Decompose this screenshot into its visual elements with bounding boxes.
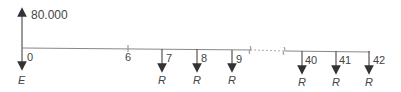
timeline-axis-2 bbox=[285, 51, 370, 52]
payment-label: R bbox=[228, 75, 236, 86]
payment-label: R bbox=[332, 77, 340, 88]
period-label: 8 bbox=[201, 53, 207, 64]
period-label: 40 bbox=[305, 55, 317, 66]
payment-label: R bbox=[158, 75, 166, 86]
payment-label: R bbox=[365, 77, 373, 88]
timeline-axis bbox=[22, 48, 252, 50]
period-label: 7 bbox=[166, 53, 172, 64]
period-label: 6 bbox=[125, 52, 131, 63]
payment-label: R bbox=[298, 77, 306, 88]
period-label: 41 bbox=[339, 55, 351, 66]
inflow-amount: 80.000 bbox=[31, 9, 68, 21]
axis-break-right bbox=[283, 47, 285, 55]
period-label: 42 bbox=[373, 55, 385, 66]
axis-break-dots bbox=[254, 50, 283, 51]
period-label: 9 bbox=[236, 54, 242, 65]
outflow-label-e: E bbox=[18, 75, 25, 86]
period-label-0: 0 bbox=[27, 52, 33, 63]
payment-label: R bbox=[193, 75, 201, 86]
